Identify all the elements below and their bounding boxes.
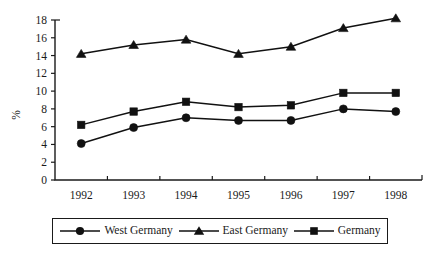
x-tick-label: 1996 [279, 189, 302, 201]
x-tick-label: 1997 [332, 189, 355, 201]
legend-swatch-square-icon [293, 224, 335, 238]
y-tick-label: 10 [36, 85, 48, 97]
x-tick-label: 1998 [384, 189, 407, 201]
legend-swatch-circle-icon [59, 224, 101, 238]
data-point-marker [130, 124, 138, 132]
data-point-marker [340, 89, 347, 96]
chart-legend: West Germany East Germany Germany [52, 218, 388, 244]
data-point-marker [182, 114, 190, 122]
line-chart: 024681012141618 199219931994199519961997… [0, 0, 437, 255]
y-tick-label: 0 [41, 174, 47, 186]
legend-item-east-germany[interactable]: East Germany [178, 224, 288, 238]
data-point-marker [286, 42, 296, 50]
y-tick-label: 16 [36, 32, 48, 44]
data-point-marker [130, 108, 137, 115]
chart-figure: 024681012141618 199219931994199519961997… [0, 0, 437, 255]
data-point-marker [392, 108, 400, 116]
legend-label-germany: Germany [338, 225, 381, 237]
data-point-marker [391, 14, 401, 22]
data-point-marker [182, 98, 189, 105]
y-axis-ticks: 024681012141618 [36, 14, 56, 186]
x-tick-label: 1995 [227, 189, 250, 201]
x-tick-label: 1992 [70, 189, 93, 201]
x-tick-label: 1993 [122, 189, 145, 201]
y-tick-label: 14 [36, 50, 48, 62]
data-point-marker [78, 121, 85, 128]
x-tick-label: 1994 [175, 189, 198, 201]
y-tick-label: 8 [41, 103, 47, 115]
data-point-marker [235, 103, 242, 110]
y-tick-label: 6 [41, 121, 47, 133]
series-line-east-germany [81, 18, 396, 54]
legend-item-west-germany[interactable]: West Germany [59, 224, 172, 238]
y-tick-label: 2 [41, 156, 47, 168]
legend-item-germany[interactable]: Germany [293, 224, 381, 238]
data-point-marker [77, 140, 85, 148]
y-tick-label: 12 [36, 67, 48, 79]
legend-label-west-germany: West Germany [104, 225, 172, 237]
series-line-west-germany [81, 109, 396, 144]
chart-series [76, 14, 400, 148]
data-point-marker [339, 105, 347, 113]
y-tick-label: 18 [36, 14, 48, 26]
legend-label-east-germany: East Germany [223, 225, 288, 237]
y-tick-label: 4 [41, 138, 47, 150]
data-point-marker [235, 116, 243, 124]
data-point-marker [287, 102, 294, 109]
y-axis-label: % [10, 110, 22, 120]
data-point-marker [287, 116, 295, 124]
legend-swatch-triangle-icon [178, 224, 220, 238]
chart-axes [55, 20, 422, 180]
data-point-marker [392, 89, 399, 96]
